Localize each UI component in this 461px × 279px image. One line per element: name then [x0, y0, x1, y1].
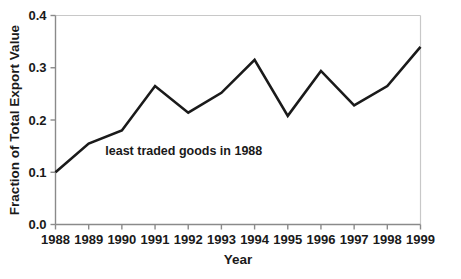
y-axis-tick-label: 0.3: [28, 60, 46, 75]
x-axis-tick-label: 1992: [174, 232, 203, 247]
x-axis-tick-label: 1995: [273, 232, 302, 247]
x-axis-tick-label: 1998: [373, 232, 402, 247]
y-axis-tick-label: 0.1: [28, 165, 46, 180]
y-axis-tick-label: 0.2: [28, 113, 46, 128]
x-axis-tick-label: 1990: [107, 232, 136, 247]
x-axis-tick-label: 1993: [207, 232, 236, 247]
y-axis-tick-label: 0.0: [28, 217, 46, 232]
x-axis-tick-label: 1999: [406, 232, 435, 247]
line-chart: 0.00.10.20.30.4 198819891990199119921993…: [0, 0, 461, 279]
x-axis-tick-label: 1997: [340, 232, 369, 247]
x-axis-tick-label: 1989: [74, 232, 103, 247]
x-axis-tick-label: 1988: [41, 232, 70, 247]
x-axis-tick-label: 1996: [306, 232, 335, 247]
x-axis-title: Year: [224, 252, 253, 267]
x-axis-tick-label: 1994: [240, 232, 270, 247]
x-axis-tick-label: 1991: [141, 232, 170, 247]
y-axis-tick-label: 0.4: [28, 8, 47, 23]
y-axis-title: Fraction of Total Export Value: [7, 24, 22, 215]
chart-annotation: least traded goods in 1988: [105, 144, 262, 158]
chart-container: 0.00.10.20.30.4 198819891990199119921993…: [0, 0, 461, 279]
